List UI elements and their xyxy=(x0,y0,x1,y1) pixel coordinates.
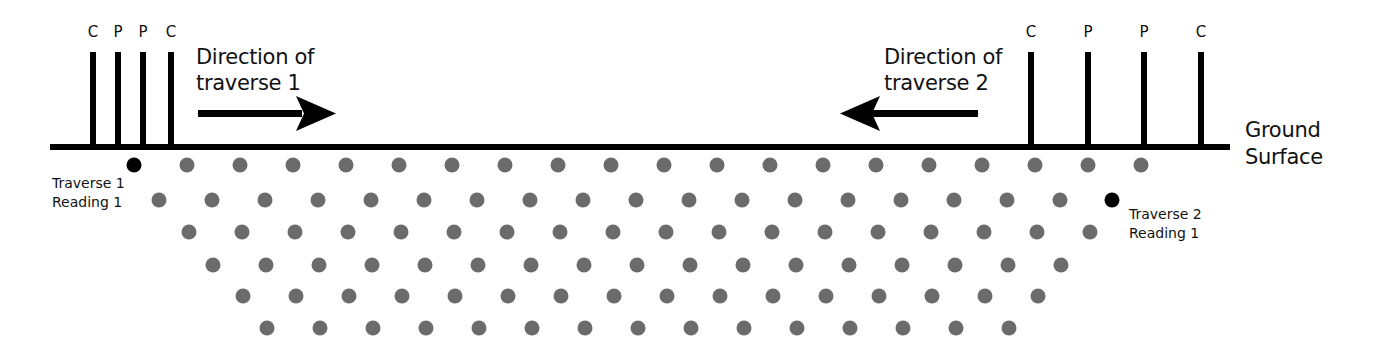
electrode-label-p: P xyxy=(1139,25,1148,40)
datum-point xyxy=(259,258,274,273)
datum-point xyxy=(578,321,593,336)
datum-point xyxy=(182,225,197,240)
datum-point xyxy=(710,158,725,173)
datum-point xyxy=(339,158,354,173)
datum-point xyxy=(418,258,433,273)
ground-surface-label: Ground Surface xyxy=(1245,117,1323,171)
electrode-label-p: P xyxy=(1083,25,1092,40)
datum-point xyxy=(233,158,248,173)
datum-point xyxy=(736,258,751,273)
datum-point xyxy=(472,321,487,336)
datum-point xyxy=(448,289,463,304)
electrode-p xyxy=(1085,52,1091,147)
datum-point xyxy=(843,321,858,336)
traverse-1-reading-1-label: Traverse 1 Reading 1 xyxy=(52,174,125,212)
electrode-p xyxy=(1141,52,1147,147)
pseudosection-dots xyxy=(152,158,1149,336)
direction-line-2: traverse 2 xyxy=(884,70,1002,96)
datum-point xyxy=(364,193,379,208)
datum-point xyxy=(500,225,515,240)
datum-point xyxy=(447,225,462,240)
datum-point xyxy=(947,193,962,208)
datum-point xyxy=(869,158,884,173)
datum-point xyxy=(554,289,569,304)
datum-point xyxy=(713,289,728,304)
electrode-label-c: C xyxy=(1196,25,1206,40)
datum-point xyxy=(501,289,516,304)
direction-line-1: Direction of xyxy=(884,44,1002,70)
datum-point xyxy=(630,258,645,273)
datum-point xyxy=(417,193,432,208)
datum-point xyxy=(659,225,674,240)
datum-point xyxy=(523,193,538,208)
datum-point xyxy=(236,289,251,304)
datum-point xyxy=(631,321,646,336)
datum-point xyxy=(312,258,327,273)
datum-point xyxy=(577,258,592,273)
direction-line-2: traverse 1 xyxy=(196,70,314,96)
datum-point xyxy=(289,289,304,304)
electrode-label-c: C xyxy=(88,25,98,40)
ground-label-line-1: Ground xyxy=(1245,117,1323,144)
datum-point xyxy=(1030,225,1045,240)
reading-label-line-1: Traverse 1 xyxy=(52,174,125,193)
datum-point xyxy=(551,158,566,173)
datum-point xyxy=(341,225,356,240)
traverse-1-reading-1-point xyxy=(127,158,142,173)
traverse-2-reading-1-point xyxy=(1105,193,1120,208)
datum-point xyxy=(1083,225,1098,240)
datum-point xyxy=(395,289,410,304)
datum-point xyxy=(975,158,990,173)
datum-point xyxy=(180,158,195,173)
datum-point xyxy=(948,258,963,273)
electrode-label-p: P xyxy=(138,25,147,40)
electrode-c xyxy=(90,52,96,147)
electrode-label-p: P xyxy=(113,25,122,40)
datum-point xyxy=(894,193,909,208)
resistivity-traverse-diagram: C P P C C P P C Direction of traverse 1 … xyxy=(0,0,1378,353)
datum-point xyxy=(1134,158,1149,173)
datum-point xyxy=(342,289,357,304)
reading-label-line-2: Reading 1 xyxy=(52,193,125,212)
datum-point xyxy=(922,158,937,173)
ground-label-line-2: Surface xyxy=(1245,144,1323,171)
datum-point xyxy=(206,258,221,273)
datum-point xyxy=(816,158,831,173)
datum-point xyxy=(924,225,939,240)
datum-point xyxy=(683,258,698,273)
datum-point xyxy=(660,289,675,304)
datum-point xyxy=(819,289,834,304)
datum-point xyxy=(788,193,803,208)
datum-point xyxy=(152,193,167,208)
datum-point xyxy=(629,193,644,208)
direction-line-1: Direction of xyxy=(196,44,314,70)
datum-point xyxy=(258,193,273,208)
datum-point xyxy=(682,193,697,208)
datum-point xyxy=(260,321,275,336)
datum-point xyxy=(205,193,220,208)
datum-point xyxy=(553,225,568,240)
datum-point xyxy=(606,225,621,240)
datum-point xyxy=(684,321,699,336)
datum-point xyxy=(872,289,887,304)
datum-point xyxy=(1001,258,1016,273)
reading-label-line-2: Reading 1 xyxy=(1129,224,1202,243)
traverse-2-reading-1-label: Traverse 2 Reading 1 xyxy=(1129,205,1202,243)
datum-point xyxy=(365,258,380,273)
datum-point xyxy=(470,193,485,208)
reading-label-line-1: Traverse 2 xyxy=(1129,205,1202,224)
datum-point xyxy=(1081,158,1096,173)
electrode-c xyxy=(1028,52,1034,147)
electrode-p xyxy=(115,52,121,147)
datum-point xyxy=(604,158,619,173)
datum-point xyxy=(842,258,857,273)
datum-point xyxy=(1002,321,1017,336)
datum-point xyxy=(366,321,381,336)
datum-point xyxy=(790,321,805,336)
electrode-c xyxy=(1198,52,1204,147)
datum-point xyxy=(311,193,326,208)
datum-point xyxy=(1028,158,1043,173)
electrode-label-c: C xyxy=(1026,25,1036,40)
datum-point xyxy=(419,321,434,336)
datum-point xyxy=(925,289,940,304)
